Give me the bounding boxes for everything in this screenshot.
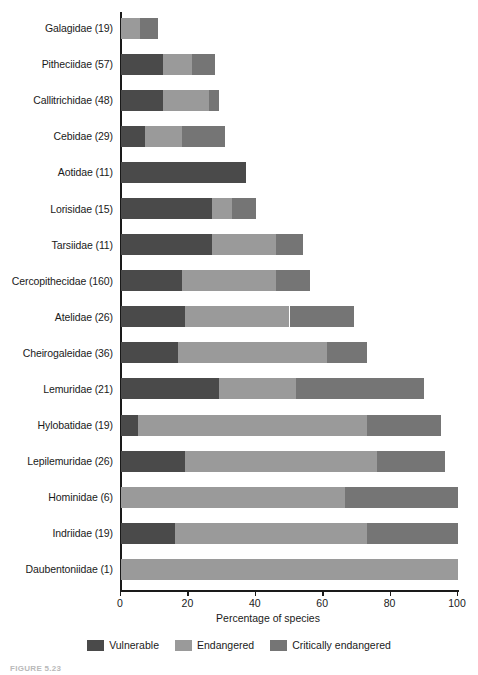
bar-segment <box>163 54 192 75</box>
chart-row: Lemuridae (21) <box>0 371 478 407</box>
bar-segment <box>367 415 441 436</box>
category-label: Tarsiidae (11) <box>0 239 113 251</box>
bar-segment <box>345 487 458 508</box>
chart-row: Tarsiidae (11) <box>0 227 478 263</box>
bar-segment <box>296 378 424 399</box>
bar-segment <box>121 18 140 39</box>
bar-segment <box>145 126 182 147</box>
category-label: Pitheciidae (57) <box>0 58 113 70</box>
chart-row: Daubentoniidae (1) <box>0 551 478 587</box>
chart-row: Hominidae (6) <box>0 479 478 515</box>
bar-segment <box>178 342 326 363</box>
legend-item: Critically endangered <box>270 639 391 651</box>
bar-segment <box>121 162 246 183</box>
bar-segment <box>276 270 310 291</box>
legend-item: Endangered <box>175 639 254 651</box>
stacked-bar <box>121 234 458 255</box>
category-label: Lemuridae (21) <box>0 383 113 395</box>
chart-row: Hylobatidae (19) <box>0 407 478 443</box>
figure-container: Galagidae (19)Pitheciidae (57)Callitrich… <box>0 0 478 675</box>
category-label: Indriidae (19) <box>0 527 113 539</box>
stacked-bar <box>121 342 458 363</box>
stacked-bar <box>121 487 458 508</box>
bar-segment <box>219 378 297 399</box>
category-label: Lepilemuridae (26) <box>0 455 113 467</box>
category-label: Cheirogaleidae (36) <box>0 347 113 359</box>
x-axis-tick-label: 20 <box>182 597 194 609</box>
bar-segment <box>163 90 208 111</box>
chart-plot-area: Galagidae (19)Pitheciidae (57)Callitrich… <box>0 0 478 600</box>
stacked-bar <box>121 523 458 544</box>
stacked-bar <box>121 162 458 183</box>
chart-row: Atelidae (26) <box>0 299 478 335</box>
bar-segment <box>121 234 212 255</box>
bar-segment <box>121 54 163 75</box>
bar-segment <box>140 18 159 39</box>
bar-segment <box>138 415 367 436</box>
bar-segment <box>185 306 289 327</box>
bar-segment <box>121 378 219 399</box>
legend-label: Vulnerable <box>109 639 159 651</box>
bar-segment <box>121 451 185 472</box>
bar-segment <box>209 90 219 111</box>
chart-row: Lepilemuridae (26) <box>0 443 478 479</box>
category-label: Atelidae (26) <box>0 311 113 323</box>
x-axis-title-text: Percentage of species <box>216 612 320 624</box>
category-label: Hominidae (6) <box>0 491 113 503</box>
chart-row: Aotidae (11) <box>0 154 478 190</box>
chart-row: Galagidae (19) <box>0 10 478 46</box>
bar-segment <box>192 54 216 75</box>
category-label: Lorisidae (15) <box>0 203 113 215</box>
x-axis-tick <box>255 590 256 596</box>
bar-segment <box>327 342 367 363</box>
stacked-bar <box>121 306 458 327</box>
bar-segment <box>367 523 458 544</box>
legend-swatch-icon <box>175 640 192 651</box>
legend-label: Critically endangered <box>292 639 391 651</box>
figure-caption: FIGURE 5.23 <box>10 664 61 673</box>
bar-segment <box>212 198 232 219</box>
bar-segment <box>121 198 212 219</box>
bar-segment <box>182 126 226 147</box>
bar-segment <box>121 342 178 363</box>
chart-row: Indriidae (19) <box>0 515 478 551</box>
x-axis-line <box>120 590 459 592</box>
chart-row: Pitheciidae (57) <box>0 46 478 82</box>
chart-row: Lorisidae (15) <box>0 190 478 226</box>
stacked-bar <box>121 559 458 580</box>
bar-segment <box>121 270 182 291</box>
chart-row: Cebidae (29) <box>0 118 478 154</box>
x-axis-tick <box>390 590 391 596</box>
x-axis-title: Percentage of species <box>0 612 478 624</box>
legend-item: Vulnerable <box>87 639 159 651</box>
category-label: Galagidae (19) <box>0 22 113 34</box>
legend-label: Endangered <box>197 639 254 651</box>
category-label: Callitrichidae (48) <box>0 94 113 106</box>
bar-segment <box>121 559 458 580</box>
stacked-bar <box>121 451 458 472</box>
chart-row: Cercopithecidae (160) <box>0 263 478 299</box>
stacked-bar <box>121 270 458 291</box>
bar-segment <box>185 451 377 472</box>
bar-segment <box>212 234 276 255</box>
chart-row: Cheirogaleidae (36) <box>0 335 478 371</box>
bar-segment <box>232 198 256 219</box>
category-label: Aotidae (11) <box>0 166 113 178</box>
x-axis-tick <box>322 590 323 596</box>
chart-row: Callitrichidae (48) <box>0 82 478 118</box>
bar-rows: Galagidae (19)Pitheciidae (57)Callitrich… <box>0 10 478 588</box>
x-axis-tick-label: 80 <box>384 597 396 609</box>
legend-swatch-icon <box>270 640 287 651</box>
legend-swatch-icon <box>87 640 104 651</box>
x-axis-tick-label: 100 <box>448 597 466 609</box>
bar-segment <box>121 306 185 327</box>
bar-segment <box>121 523 175 544</box>
stacked-bar <box>121 18 458 39</box>
x-axis-tick <box>120 590 121 596</box>
bar-segment <box>121 126 145 147</box>
stacked-bar <box>121 378 458 399</box>
x-axis-tick-label: 60 <box>316 597 328 609</box>
category-label: Cebidae (29) <box>0 130 113 142</box>
x-axis-tick <box>457 590 458 596</box>
bar-segment <box>182 270 276 291</box>
